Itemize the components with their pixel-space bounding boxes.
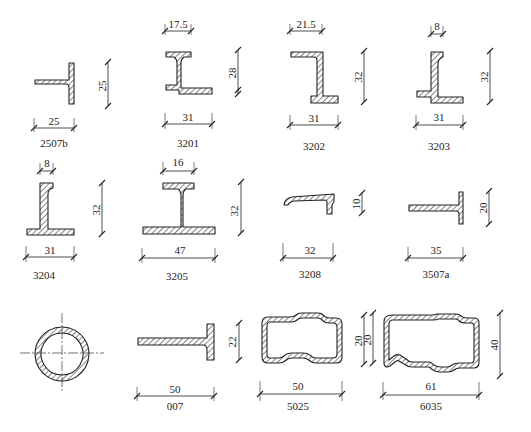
profile-label: 3208 [299, 268, 322, 280]
tee-section-shape [27, 183, 74, 235]
profile-label: 3202 [303, 140, 325, 152]
tee-section-shape [138, 324, 214, 360]
profile-label: 3205 [166, 270, 189, 282]
width-dim: 31 [45, 244, 56, 256]
profile-round-tube [20, 313, 104, 392]
height-dim: 25 [96, 80, 108, 92]
width-dim: 50 [293, 380, 305, 392]
width-dim: 35 [431, 244, 443, 256]
profile-label: 5025 [287, 400, 310, 412]
profile-3203: 8 32 31 3203 [413, 20, 493, 152]
profile-label: 3203 [428, 140, 451, 152]
width-dim: 47 [175, 244, 187, 256]
height-dim: 32 [228, 206, 240, 217]
profile-007: 22 50 007 [134, 320, 242, 412]
top-dim: 16 [173, 156, 185, 168]
rect-tube-section-shape [384, 314, 479, 372]
profile-drawing-sheet: 25 25 2507b 17.5 28 31 3201 [0, 0, 531, 432]
height-dim: 40 [488, 339, 500, 351]
height-dim: 32 [90, 205, 102, 216]
profile-label: 2507b [40, 137, 68, 149]
angle-section-shape [417, 52, 463, 103]
top-dim: 8 [44, 157, 50, 169]
height-dim: 10 [350, 198, 362, 210]
inner-height-dim: 20 [361, 334, 373, 346]
profile-6035: 20 40 61 6035 [361, 310, 503, 412]
profile-3202: 21.5 32 31 3202 [287, 18, 367, 152]
top-dim: 17.5 [168, 18, 188, 30]
i-section-shape [143, 183, 215, 234]
top-dim: 8 [434, 20, 440, 32]
z-section-shape [166, 52, 212, 94]
profile-3204: 8 32 31 3204 [23, 157, 105, 281]
width-dim: 31 [183, 111, 194, 123]
profile-label: 3204 [33, 269, 56, 281]
profile-2507b: 25 25 2507b [31, 59, 111, 149]
profile-3507a: 20 35 3507a [405, 188, 492, 280]
profile-3208: 10 32 3208 [280, 190, 365, 280]
width-dim: 31 [309, 112, 320, 124]
height-dim: 28 [226, 67, 238, 79]
profile-5025: 20 50 5025 [257, 312, 367, 412]
profile-label: 3507a [423, 268, 450, 280]
angle-section-shape [291, 52, 338, 103]
width-dim: 50 [170, 383, 182, 395]
sill-section-shape [284, 194, 334, 214]
profile-label: 007 [167, 400, 184, 412]
width-dim: 61 [426, 380, 437, 392]
height-dim: 32 [352, 72, 364, 83]
height-dim: 20 [477, 202, 489, 214]
profile-3201: 17.5 28 31 3201 [162, 18, 241, 149]
height-dim: 22 [226, 337, 238, 348]
profile-label: 3201 [177, 137, 199, 149]
width-dim: 31 [434, 111, 445, 123]
tee-section-shape [409, 192, 463, 224]
height-dim: 32 [478, 72, 490, 83]
profile-3205: 16 32 47 3205 [139, 156, 244, 282]
width-dim: 32 [305, 244, 316, 256]
width-dim: 25 [49, 115, 61, 127]
profile-label: 6035 [420, 400, 443, 412]
tee-section-shape [35, 63, 74, 104]
rect-tube-section-shape [262, 313, 342, 363]
top-dim: 21.5 [296, 18, 316, 30]
